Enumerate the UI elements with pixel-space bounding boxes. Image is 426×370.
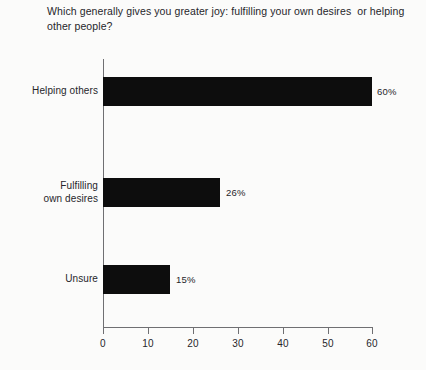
bar-helping-others xyxy=(103,77,372,106)
x-axis-tick-label-0: 0 xyxy=(100,338,106,349)
bar-value-fulfilling-own-desires: 26% xyxy=(226,187,246,198)
chart-page: Which generally gives you greater joy: f… xyxy=(0,0,426,370)
category-label-fulfilling-own-desires: Fulfilling own desires xyxy=(0,180,98,205)
x-axis-tick-label-20: 20 xyxy=(187,338,199,349)
x-axis-tick-20 xyxy=(193,328,194,334)
x-axis-tick-label-10: 10 xyxy=(142,338,154,349)
x-axis-tick-0 xyxy=(103,328,104,334)
category-label-line-1: Unsure xyxy=(0,273,98,286)
category-label-unsure: Unsure xyxy=(0,273,98,286)
bar-fulfilling-own-desires xyxy=(103,178,220,207)
x-axis-tick-label-40: 40 xyxy=(277,338,289,349)
x-axis-tick-label-50: 50 xyxy=(322,338,334,349)
x-axis-tick-30 xyxy=(238,328,239,334)
category-label-line-1: Helping others xyxy=(0,85,98,98)
bar-unsure xyxy=(103,265,170,294)
x-axis-tick-label-60: 60 xyxy=(366,338,378,349)
x-axis-tick-40 xyxy=(283,328,284,334)
bar-value-helping-others: 60% xyxy=(377,86,397,97)
plot-area: 0 10 20 30 40 50 60 Helping others 60% F… xyxy=(0,0,426,370)
category-label-line-2: own desires xyxy=(0,193,98,206)
x-axis-tick-label-30: 30 xyxy=(232,338,244,349)
x-axis-tick-10 xyxy=(148,328,149,334)
category-label-line-1: Fulfilling xyxy=(0,180,98,193)
x-axis-tick-60 xyxy=(372,328,373,334)
category-label-helping-others: Helping others xyxy=(0,85,98,98)
x-axis-tick-50 xyxy=(328,328,329,334)
bar-value-unsure: 15% xyxy=(176,274,196,285)
